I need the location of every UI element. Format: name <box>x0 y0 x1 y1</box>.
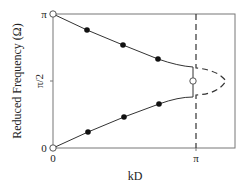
data-point-marker <box>121 114 127 120</box>
lower-branch-curve <box>53 97 193 148</box>
y-axis-label: Reduced Frequency (Ω) <box>10 23 24 139</box>
data-point-marker <box>155 56 161 62</box>
x-tick-label-zero: 0 <box>50 152 56 164</box>
plot-frame <box>53 14 235 148</box>
data-point-marker <box>85 129 91 135</box>
y-tick-label-pi: π <box>41 8 47 20</box>
y-tick-label-pi-half: π/2 <box>33 74 45 88</box>
upper-branch-curve <box>53 14 193 67</box>
y-tick-label-zero: 0 <box>41 142 47 154</box>
x-tick-label-pi: π <box>193 152 199 164</box>
dashed-branch-curve <box>196 14 226 148</box>
dispersion-chart: π π/2 0 0 π kD Reduced Frequency (Ω) <box>0 0 246 186</box>
open-marker-top <box>50 11 56 17</box>
data-point-marker <box>156 101 162 107</box>
x-axis-label: kD <box>128 169 143 183</box>
open-marker-gap <box>190 78 196 84</box>
data-point-marker <box>84 27 90 33</box>
open-marker-origin <box>50 145 56 151</box>
data-point-marker <box>120 42 126 48</box>
